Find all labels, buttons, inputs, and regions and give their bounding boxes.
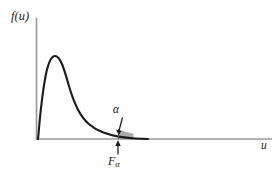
alpha-annotation-arrow-shaft — [119, 118, 123, 132]
x-axis-label: u — [261, 140, 267, 152]
figure-container: f(u) u α Fα — [0, 0, 278, 180]
plot-canvas — [0, 0, 278, 180]
critical-value-subscript: α — [115, 159, 119, 169]
density-curve — [38, 56, 148, 139]
critical-value-f-alpha-label: Fα — [108, 155, 120, 169]
y-axis-label: f(u) — [11, 10, 29, 23]
f-alpha-annotation-arrow-head — [115, 140, 120, 146]
tail-area-alpha-label: α — [113, 104, 119, 116]
